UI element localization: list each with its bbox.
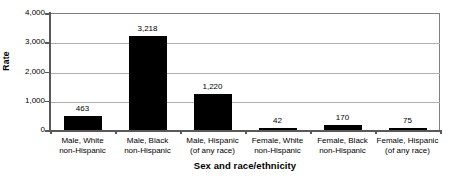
x-category-label-line: non-Hispanic bbox=[50, 146, 115, 156]
chart-title bbox=[0, 0, 449, 2]
x-category-label-line: non-Hispanic bbox=[245, 146, 310, 156]
gridline bbox=[50, 43, 440, 44]
x-tick-mark bbox=[245, 130, 247, 134]
x-category-label-line: Male, Hispanic bbox=[180, 136, 245, 146]
x-tick-mark bbox=[50, 130, 52, 134]
x-tick-mark bbox=[440, 130, 442, 134]
x-category-label-line: Female, Black bbox=[310, 136, 375, 146]
gridline bbox=[50, 73, 440, 74]
x-category-label: Male, Hispanic(of any race) bbox=[180, 136, 245, 156]
bar bbox=[129, 36, 167, 130]
x-category-label-line: non-Hispanic bbox=[115, 146, 180, 156]
x-category-label: Female, Whitenon-Hispanic bbox=[245, 136, 310, 156]
x-tick-mark bbox=[375, 130, 377, 134]
x-category-label-line: Female, White bbox=[245, 136, 310, 146]
y-axis-ticks: 01,0002,0003,0004,000 bbox=[0, 0, 45, 176]
x-axis-line bbox=[45, 130, 441, 132]
bar bbox=[324, 125, 362, 130]
bar bbox=[259, 128, 297, 130]
x-tick-mark bbox=[115, 130, 117, 134]
x-category-label: Male, Blacknon-Hispanic bbox=[115, 136, 180, 156]
x-tick-mark bbox=[180, 130, 182, 134]
x-category-label-line: Male, White bbox=[50, 136, 115, 146]
x-category-label: Female, Blacknon-Hispanic bbox=[310, 136, 375, 156]
bar-chart-figure: Rate 01,0002,0003,0004,000 4633,2181,220… bbox=[0, 0, 449, 176]
bar bbox=[389, 128, 427, 130]
x-axis-title: Sex and race/ethnicity bbox=[50, 160, 440, 171]
x-category-label-line: (of any race) bbox=[180, 146, 245, 156]
bar-value-label: 170 bbox=[313, 114, 373, 122]
y-tick-label: 1,000 bbox=[3, 97, 45, 105]
bar-value-label: 463 bbox=[53, 105, 113, 113]
x-category-label-line: Female, Hispanic bbox=[375, 136, 440, 146]
bar bbox=[64, 116, 102, 130]
x-category-label-line: (of any race) bbox=[375, 146, 440, 156]
y-tick-label: 4,000 bbox=[3, 9, 45, 17]
gridline bbox=[50, 102, 440, 103]
x-category-label: Male, Whitenon-Hispanic bbox=[50, 136, 115, 156]
x-category-label-line: Male, Black bbox=[115, 136, 180, 146]
x-category-label: Female, Hispanic(of any race) bbox=[375, 136, 440, 156]
y-tick-label: 0 bbox=[3, 126, 45, 134]
y-axis-line bbox=[49, 12, 51, 131]
bar-value-label: 75 bbox=[378, 117, 438, 125]
bar-value-label: 1,220 bbox=[183, 83, 243, 91]
y-tick-label: 3,000 bbox=[3, 38, 45, 46]
bar-value-label: 42 bbox=[248, 117, 308, 125]
bar bbox=[194, 94, 232, 130]
x-tick-mark bbox=[310, 130, 312, 134]
x-category-label-line: non-Hispanic bbox=[310, 146, 375, 156]
bar-value-label: 3,218 bbox=[118, 25, 178, 33]
y-tick-label: 2,000 bbox=[3, 68, 45, 76]
